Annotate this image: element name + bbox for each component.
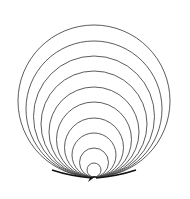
convergence-tail bbox=[52, 170, 136, 182]
circle-10 bbox=[87, 163, 101, 177]
circle-9 bbox=[80, 148, 109, 177]
circle-5 bbox=[49, 87, 139, 177]
circle-2 bbox=[26, 41, 162, 177]
circle-group bbox=[18, 25, 170, 177]
nested-tangent-circles-diagram bbox=[0, 0, 190, 199]
circle-6 bbox=[57, 102, 132, 177]
circle-8 bbox=[72, 133, 116, 177]
circle-1 bbox=[18, 25, 170, 177]
